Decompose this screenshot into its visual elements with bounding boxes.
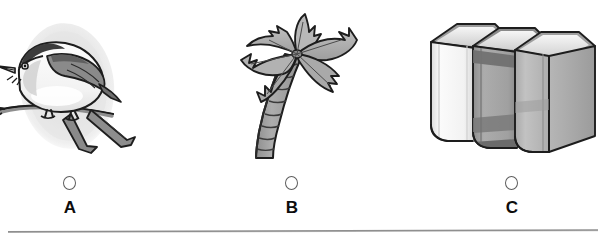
multiple-choice-question: A bbox=[0, 0, 606, 245]
radio-button-a[interactable] bbox=[63, 176, 76, 190]
choice-letter-c: C bbox=[500, 198, 524, 218]
choice-option-a[interactable]: A bbox=[0, 0, 165, 225]
choice-letter-b: B bbox=[280, 198, 304, 218]
palm-tree-illustration bbox=[197, 6, 387, 172]
radio-button-b[interactable] bbox=[285, 176, 298, 190]
stack-of-books-illustration bbox=[417, 6, 606, 172]
choice-letter-a: A bbox=[58, 198, 82, 218]
choice-option-b[interactable]: B bbox=[197, 0, 387, 225]
choice-option-c[interactable]: C bbox=[417, 0, 606, 225]
radio-button-c[interactable] bbox=[505, 176, 518, 190]
book-3 bbox=[515, 32, 595, 152]
horizontal-rule bbox=[8, 229, 598, 233]
bird-on-branch-illustration bbox=[0, 6, 165, 172]
